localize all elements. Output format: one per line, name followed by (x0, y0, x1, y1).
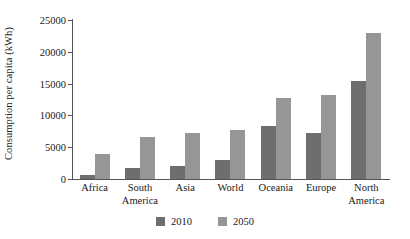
legend-entry[interactable]: 2010 (156, 216, 192, 227)
y-axis-tick-label: 15000 (40, 78, 66, 89)
bar-2010[interactable] (170, 166, 185, 179)
x-axis-label-line: World (208, 181, 253, 194)
legend-entry[interactable]: 2050 (218, 216, 254, 227)
x-axis-label-line: Oceania (253, 181, 298, 194)
x-axis-label-line: Europe (298, 181, 343, 194)
bar-2010[interactable] (215, 160, 230, 179)
bar-2010[interactable] (125, 168, 140, 179)
bar-2050[interactable] (276, 98, 291, 179)
bar-2050[interactable] (95, 154, 110, 179)
legend-swatch-icon (218, 217, 227, 226)
x-axis-label: NorthAmerica (344, 181, 389, 207)
bar-group (117, 20, 162, 179)
bar-group (163, 20, 208, 179)
x-axis-label-line: South (117, 181, 162, 194)
y-axis-tick-label: 25000 (40, 15, 66, 26)
plot-area: 0500010000150002000025000 (72, 20, 389, 179)
y-axis-tick-label: 10000 (40, 110, 66, 121)
x-axis-label-line: America (117, 194, 162, 207)
y-axis-title: Consumption per capita (kWh) (0, 0, 18, 186)
y-axis-tick-label: 20000 (40, 46, 66, 57)
x-axis-label: World (208, 181, 253, 194)
bar-2010[interactable] (80, 175, 95, 179)
x-axis-label-line: Africa (72, 181, 117, 194)
x-axis-line (72, 179, 390, 180)
x-axis-label: Africa (72, 181, 117, 194)
x-axis-label-line: America (344, 194, 389, 207)
x-axis-label: SouthAmerica (117, 181, 162, 207)
chart-legend: 20102050 (0, 216, 410, 227)
bar-chart-figure: Consumption per capita (kWh) 05000100001… (0, 0, 410, 239)
bar-group (208, 20, 253, 179)
x-axis-label: Oceania (253, 181, 298, 194)
x-axis-label: Europe (298, 181, 343, 194)
bar-2050[interactable] (140, 137, 155, 179)
bar-2010[interactable] (306, 133, 321, 179)
bar-2010[interactable] (351, 81, 366, 179)
bar-2050[interactable] (321, 95, 336, 179)
x-axis-labels: AfricaSouthAmericaAsiaWorldOceaniaEurope… (72, 181, 390, 221)
legend-label: 2050 (233, 216, 254, 227)
bars-layer (72, 20, 389, 179)
bar-2050[interactable] (185, 133, 200, 179)
y-axis-tick-mark (68, 179, 72, 180)
x-axis-label-line: Asia (163, 181, 208, 194)
bar-group (298, 20, 343, 179)
legend-swatch-icon (156, 217, 165, 226)
bar-group (253, 20, 298, 179)
bar-group (72, 20, 117, 179)
x-axis-label: Asia (163, 181, 208, 194)
y-axis-tick-label: 5000 (45, 142, 66, 153)
bar-2050[interactable] (230, 130, 245, 179)
bar-group (344, 20, 389, 179)
y-axis-tick-label: 0 (61, 174, 66, 185)
bar-2010[interactable] (261, 126, 276, 179)
x-axis-label-line: North (344, 181, 389, 194)
bar-2050[interactable] (366, 33, 381, 179)
y-axis-title-text: Consumption per capita (kWh) (4, 26, 15, 159)
legend-label: 2010 (171, 216, 192, 227)
